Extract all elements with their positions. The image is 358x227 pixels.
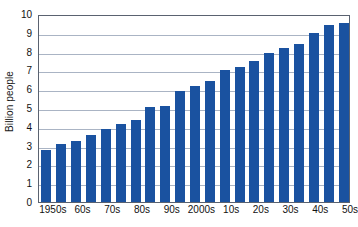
y-tick-label: 8: [26, 48, 32, 58]
x-tick-label: 80s: [134, 205, 150, 215]
bar: [220, 70, 230, 202]
bar: [279, 48, 289, 202]
y-tick-label: 10: [21, 10, 32, 20]
bar: [101, 129, 111, 202]
y-tick-label: 5: [26, 104, 32, 114]
bar: [175, 91, 185, 202]
bar: [309, 33, 319, 202]
x-tick-label: 10s: [223, 205, 239, 215]
y-tick-label: 7: [26, 66, 32, 76]
y-axis-tick-labels: 012345678910: [18, 15, 35, 203]
x-tick-label: 60s: [75, 205, 91, 215]
bar: [41, 150, 51, 202]
x-tick-label: 20s: [253, 205, 269, 215]
bar: [86, 135, 96, 202]
bar: [190, 86, 200, 202]
bar: [235, 67, 245, 202]
bar: [56, 144, 66, 202]
x-tick-label: 2000s: [188, 205, 215, 215]
x-tick-label: 50s: [342, 205, 358, 215]
bar: [145, 107, 155, 202]
y-axis-title-label: Billion people: [4, 71, 15, 132]
y-tick-label: 6: [26, 85, 32, 95]
y-axis-title: Billion people: [0, 0, 18, 203]
x-tick-label: 30s: [283, 205, 299, 215]
bar: [131, 120, 141, 202]
y-tick-label: 1: [26, 179, 32, 189]
y-tick-label: 3: [26, 142, 32, 152]
y-tick-label: 0: [26, 198, 32, 208]
bars-layer: [39, 16, 349, 202]
bar: [249, 61, 259, 202]
bar: [116, 124, 126, 202]
x-tick-label: 40s: [312, 205, 328, 215]
x-tick-label: 1950s: [39, 205, 66, 215]
y-tick-label: 9: [26, 29, 32, 39]
bar: [339, 23, 349, 202]
plot-area: [38, 15, 350, 203]
bar: [264, 53, 274, 202]
y-tick-label: 2: [26, 160, 32, 170]
bar: [294, 44, 304, 202]
bar: [324, 25, 334, 202]
population-bar-chart: Billion people 012345678910 1950s60s70s8…: [0, 0, 358, 227]
bar: [71, 141, 81, 202]
bar: [205, 81, 215, 202]
bar: [160, 106, 170, 202]
x-tick-label: 70s: [104, 205, 120, 215]
y-tick-label: 4: [26, 123, 32, 133]
x-axis-tick-labels: 1950s60s70s80s90s2000s10s20s30s40s50s: [38, 205, 350, 221]
x-tick-label: 90s: [164, 205, 180, 215]
